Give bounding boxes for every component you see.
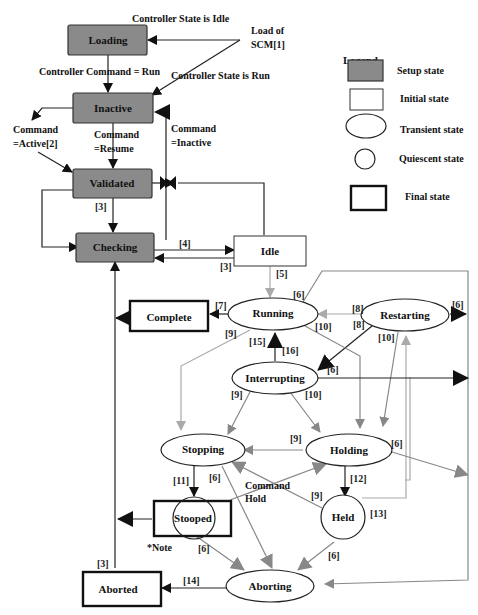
state-stopping-label: Stopping	[182, 443, 225, 455]
state-validated-label: Validated	[90, 177, 135, 189]
annotation-command-hold-value: Hold	[245, 493, 267, 504]
annotation-command-active: Command	[13, 124, 58, 135]
edge-validated-loop	[42, 190, 78, 247]
state-restarting: Restarting	[361, 299, 449, 331]
legend: Legend Setup state Initial state Transie…	[343, 54, 464, 210]
transition-label: [9]	[290, 433, 302, 444]
transition-label: [6]	[293, 289, 305, 300]
transition-label: [3]	[97, 558, 109, 569]
state-aborting-label: Aborting	[249, 580, 292, 592]
state-aborting: Aborting	[226, 570, 314, 602]
state-stooped-label: Stooped	[174, 512, 212, 524]
annotation-load-of: Load of	[251, 25, 285, 36]
state-validated: Validated	[73, 169, 152, 198]
legend-final-label: Final state	[405, 191, 450, 202]
state-checking-label: Checking	[93, 241, 138, 253]
legend-quiescent-label: Quiescent state	[399, 153, 464, 164]
state-idle: Idle	[234, 236, 306, 266]
transition-label: [14]	[183, 575, 200, 586]
transition-label: [4]	[179, 238, 191, 249]
state-aborted: Aborted	[83, 572, 161, 606]
transition-label: [7]	[215, 300, 227, 311]
transition-label: [5]	[276, 268, 288, 279]
edge-restarting-holding	[383, 332, 398, 426]
legend-setup-label: Setup state	[397, 65, 445, 76]
transition-label: [6]	[391, 438, 403, 449]
state-loading-label: Loading	[88, 34, 128, 46]
annotation-command-active-value: =Active[2]	[13, 138, 58, 149]
transition-label: [3]	[220, 261, 232, 272]
annotation-scm: SCM[1]	[251, 39, 285, 50]
transition-label: [3]	[95, 201, 107, 212]
state-aborted-label: Aborted	[98, 583, 137, 595]
transition-label: [15]	[249, 336, 266, 347]
transition-label: [9]	[225, 328, 237, 339]
state-checking: Checking	[76, 233, 154, 262]
annotation-controller-state-run: Controller State is Run	[171, 70, 270, 81]
transition-label: [13]	[370, 508, 387, 519]
transition-label: [8]	[352, 303, 364, 314]
state-held: Held	[321, 495, 365, 539]
transition-label: [6]	[327, 364, 339, 375]
edge-load-to-inactive	[152, 40, 240, 95]
state-stooped: Stooped	[154, 497, 231, 539]
transition-label: [10]	[315, 321, 332, 332]
state-inactive: Inactive	[73, 93, 153, 123]
transition-label: [10]	[378, 332, 395, 343]
transition-label: [6]	[452, 299, 464, 310]
state-complete-label: Complete	[146, 311, 191, 323]
annotation-note: *Note	[147, 542, 173, 553]
annotation-command-resume-value: =Resume	[94, 143, 134, 154]
edge-idle-junction	[178, 183, 264, 235]
junction-x-icon	[160, 176, 176, 190]
state-held-label: Held	[332, 511, 355, 523]
state-running-label: Running	[253, 307, 294, 319]
state-holding-label: Holding	[330, 444, 368, 456]
state-diagram: Loading Inactive Validated Checking Idle…	[0, 0, 478, 615]
state-restarting-label: Restarting	[380, 309, 430, 321]
annotation-command-resume: Command	[94, 129, 139, 140]
transition-label: [9]	[231, 389, 243, 400]
state-inactive-label: Inactive	[94, 102, 132, 114]
annotation-controller-state-idle: Controller State is Idle	[132, 13, 230, 24]
transition-label: [8]	[353, 319, 365, 330]
transition-label: [6]	[198, 543, 210, 554]
state-idle-label: Idle	[261, 245, 279, 257]
state-loading: Loading	[68, 25, 147, 55]
annotation-command-inactive-value: =Inactive	[171, 137, 212, 148]
edge-inactive-active	[32, 108, 73, 120]
transition-label: [12]	[350, 473, 367, 484]
transition-label: [16]	[282, 345, 299, 356]
state-interrupting-label: Interrupting	[245, 372, 305, 384]
annotation-controller-command-run: Controller Command = Run	[39, 66, 161, 77]
legend-transient-label: Transient state	[400, 124, 464, 135]
legend-final-swatch	[351, 186, 386, 210]
annotation-command-hold: Command	[245, 480, 290, 491]
transition-label: [11]	[173, 475, 189, 486]
legend-initial-swatch	[350, 89, 383, 110]
annotation-command-inactive: Command	[171, 123, 216, 134]
transition-label: [6]	[209, 472, 221, 483]
edge-held-restarting-b	[362, 476, 406, 498]
legend-transient-swatch	[346, 114, 386, 138]
edge-command-inactive	[155, 112, 166, 240]
transition-label: [10]	[305, 389, 322, 400]
state-stopping: Stopping	[161, 434, 245, 466]
transition-label: [6]	[328, 550, 340, 561]
legend-quiescent-swatch	[355, 149, 375, 169]
state-holding: Holding	[306, 434, 392, 466]
legend-initial-label: Initial state	[400, 93, 449, 104]
transition-label: [9]	[311, 490, 323, 501]
state-complete: Complete	[130, 301, 208, 331]
edge-active-validated	[38, 152, 72, 172]
legend-setup-swatch	[348, 60, 383, 81]
edge-holding-out	[392, 452, 468, 475]
state-running: Running	[228, 298, 318, 330]
